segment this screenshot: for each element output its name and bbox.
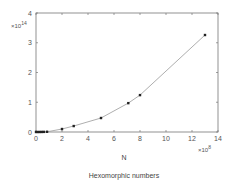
data-point-marker <box>204 34 206 36</box>
x-tick-label: 6 <box>112 135 116 142</box>
x-axis-title: N <box>121 154 126 161</box>
x-tick-label: 12 <box>188 135 196 142</box>
data-point-marker <box>73 125 75 127</box>
y-tick-label: 2 <box>28 69 32 76</box>
x-tick-label: 14 <box>214 135 222 142</box>
plot-frame <box>36 13 218 132</box>
x-tick-label: 4 <box>86 135 90 142</box>
chart-canvas: 0246810121401234×1014×108NHexomorphic nu… <box>0 0 232 184</box>
x-tick-label: 0 <box>34 135 38 142</box>
x-tick-label: 2 <box>60 135 64 142</box>
data-point-marker <box>139 94 141 96</box>
x-axis-multiplier: ×108 <box>198 144 211 153</box>
data-point-marker <box>100 117 102 119</box>
data-point-marker <box>61 128 63 130</box>
data-point-marker <box>43 131 45 133</box>
y-tick-label: 0 <box>28 129 32 136</box>
y-axis-multiplier: ×1014 <box>11 20 27 29</box>
y-tick-label: 3 <box>28 39 32 46</box>
y-tick-label: 4 <box>28 10 32 17</box>
data-point-marker <box>46 131 48 133</box>
y-tick-label: 1 <box>28 99 32 106</box>
data-point-marker <box>127 102 129 104</box>
x-tick-label: 10 <box>162 135 170 142</box>
chart-caption: Hexomorphic numbers <box>89 172 160 180</box>
x-tick-label: 8 <box>138 135 142 142</box>
series-line <box>36 35 205 132</box>
